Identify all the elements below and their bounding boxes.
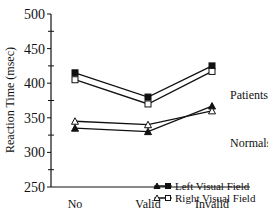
y-tick-label: 500	[24, 7, 45, 22]
y-tick-label: 300	[24, 145, 45, 160]
x-tick-label: No	[68, 197, 83, 211]
y-axis-label: Reaction Time (msec)	[3, 47, 17, 153]
open-square-marker	[72, 77, 78, 83]
annotation-patients: Patients	[230, 88, 268, 102]
filled-square-marker	[72, 70, 78, 76]
open-square-marker	[145, 101, 151, 107]
open-square-marker	[166, 196, 171, 201]
open-square-marker	[209, 68, 215, 74]
filled-square-marker	[166, 184, 171, 189]
series	[72, 63, 216, 135]
series-line	[75, 111, 212, 125]
annotation-normals: Normals	[230, 136, 268, 150]
series-line	[75, 106, 212, 132]
y-tick-label: 250	[24, 180, 45, 195]
legend: Left Visual Field Right Visual Field	[154, 180, 256, 204]
legend-right-visual-field: Right Visual Field	[175, 192, 256, 204]
y-tick-label: 350	[24, 111, 45, 126]
legend-left-visual-field: Left Visual Field	[175, 180, 250, 192]
y-tick-label: 400	[24, 76, 45, 91]
y-tick-label: 450	[24, 42, 45, 57]
reaction-time-chart: 250300350400450500NoValidInvalid Reactio…	[0, 0, 268, 212]
filled-square-marker	[145, 94, 151, 100]
